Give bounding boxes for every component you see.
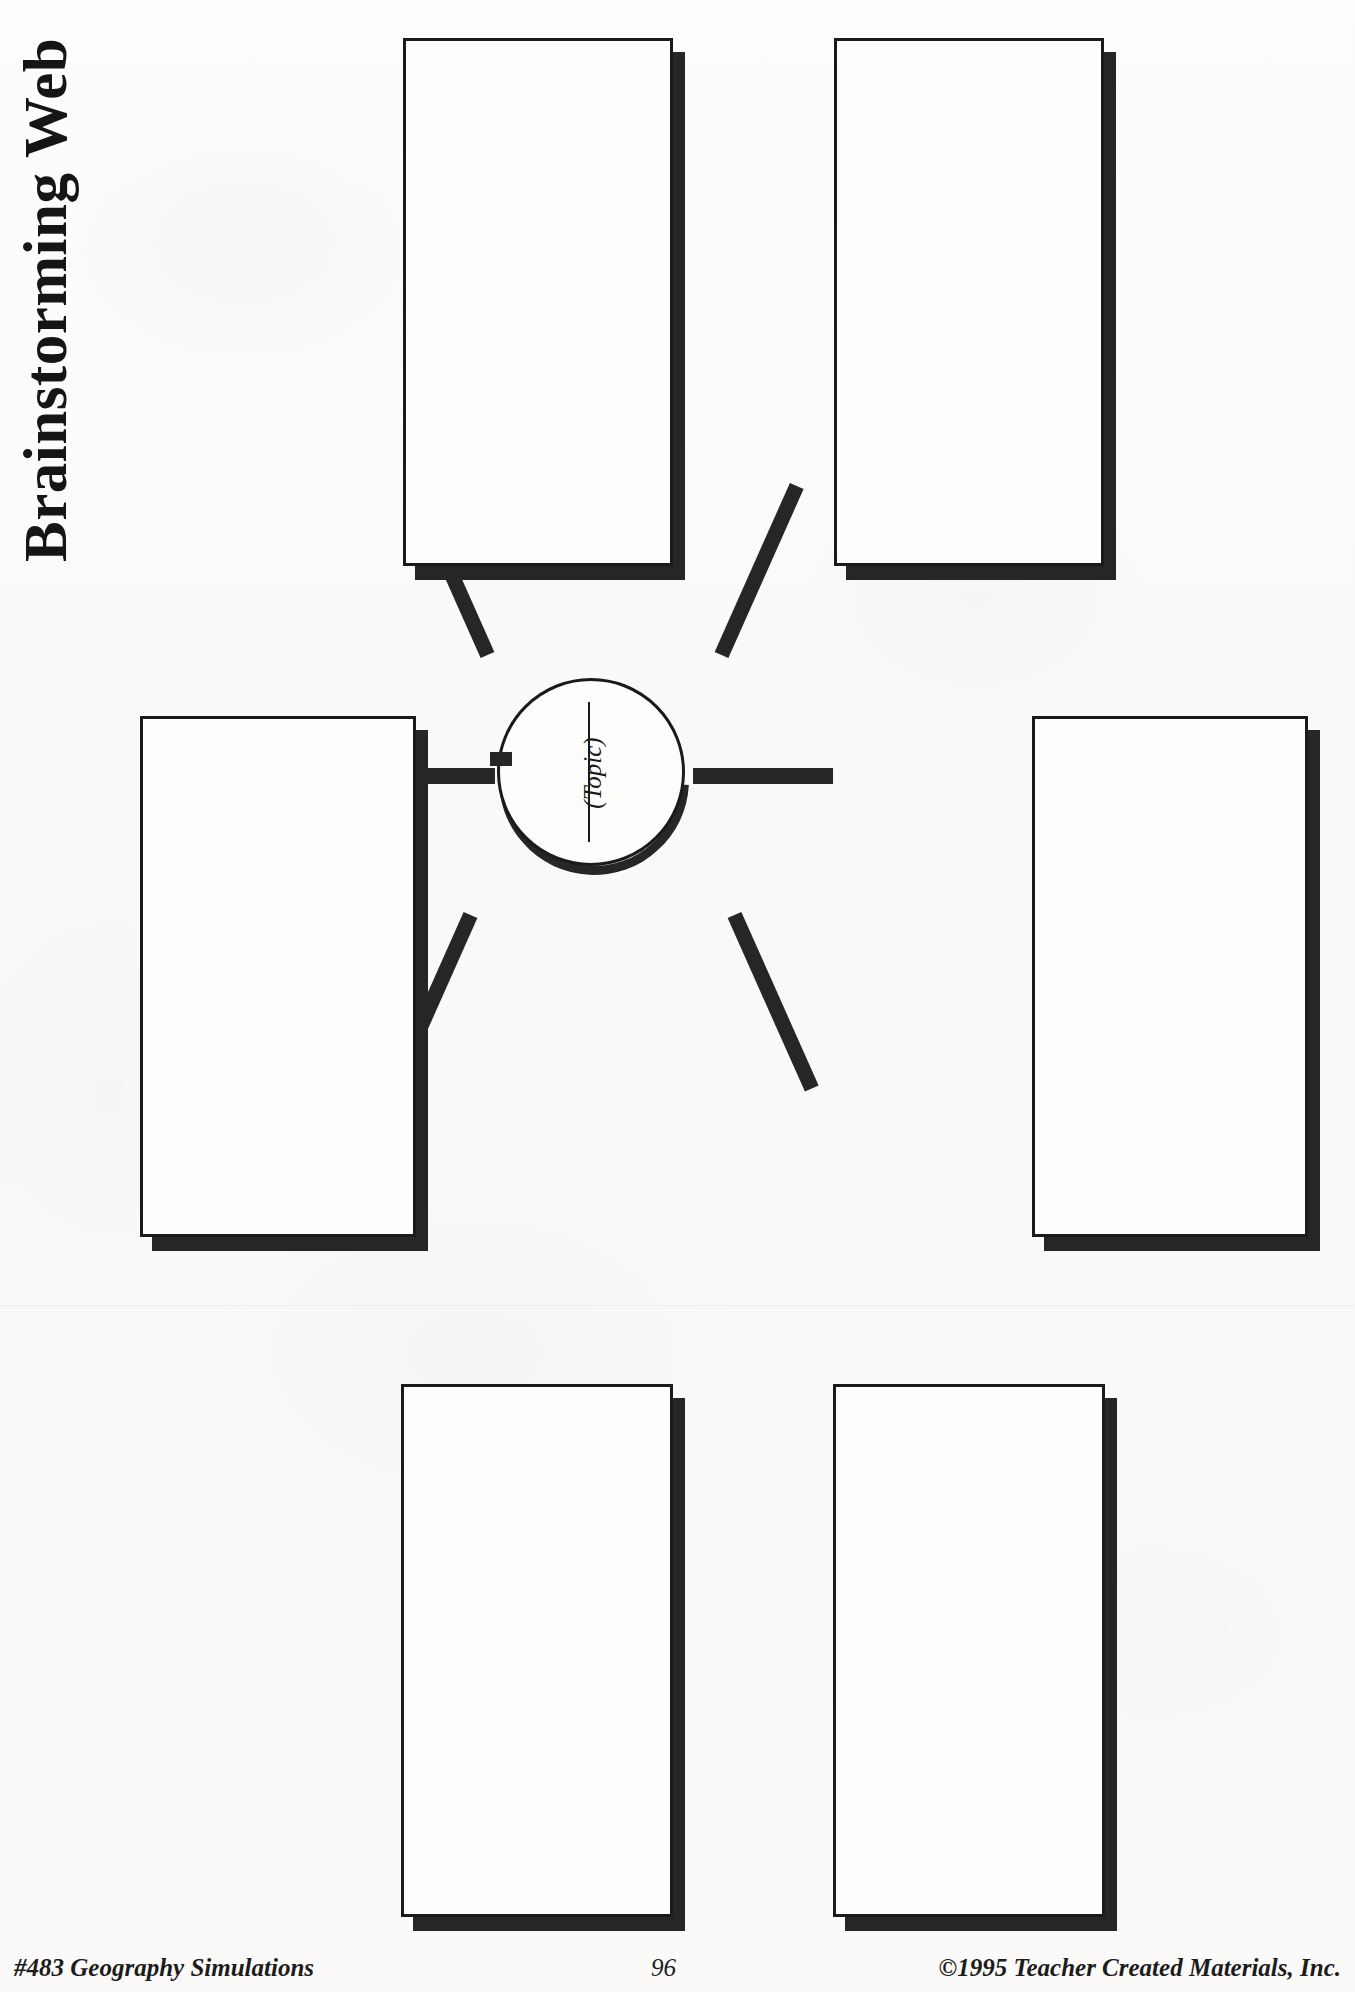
- box-bottom-left[interactable]: [401, 1384, 673, 1917]
- connector-spoke-mid-right: [693, 768, 833, 784]
- center-circle-connector-stub: [490, 752, 512, 766]
- box-top-left[interactable]: [403, 38, 673, 566]
- page-title: Brainstorming Web: [0, 2, 92, 562]
- center-topic-node[interactable]: (Topic): [492, 676, 712, 896]
- worksheet-page: Brainstorming Web: [0, 0, 1355, 1992]
- topic-label-text: (Topic): [579, 737, 607, 808]
- box-top-right[interactable]: [834, 38, 1104, 566]
- box-mid-right[interactable]: [1032, 716, 1308, 1237]
- connector-spoke-top-right: [715, 483, 804, 658]
- scan-seam-line: [0, 1305, 1355, 1306]
- connector-spoke-bottom-right: [728, 912, 819, 1092]
- box-mid-left[interactable]: [140, 716, 416, 1237]
- page-title-text: Brainstorming Web: [0, 2, 92, 562]
- topic-label: (Topic): [548, 728, 638, 818]
- footer-page-number: 96: [651, 1954, 676, 1982]
- footer-right-text: ©1995 Teacher Created Materials, Inc.: [939, 1954, 1341, 1982]
- box-bottom-right[interactable]: [833, 1384, 1105, 1917]
- footer-left-text: #483 Geography Simulations: [14, 1954, 314, 1982]
